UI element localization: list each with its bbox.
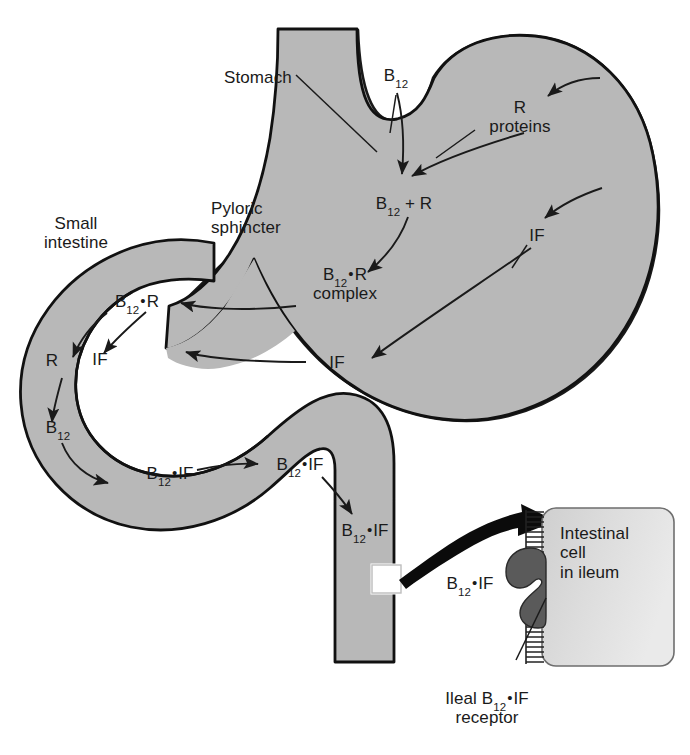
label-r-proteins: R proteins [489, 98, 550, 137]
label-b12-plus-r: B12 + R [376, 194, 433, 213]
inset-callout-box[interactable] [372, 565, 401, 593]
small-intestine-line1: Small [44, 214, 108, 233]
label-b12-free: B12 [46, 418, 70, 437]
membrane-receptor-icon [506, 548, 546, 628]
arrow-b12R-split-IF [104, 312, 146, 353]
label-if-intestine: IF [92, 350, 107, 369]
b12-top-base: B [384, 66, 395, 85]
b12plusr-sub: 12 [387, 206, 400, 218]
label-if-antrum: IF [329, 353, 344, 372]
ileal-receptor-line1: Ileal B12•IF [445, 689, 529, 708]
label-intestinal-cell: Intestinal cell in ileum [560, 524, 629, 582]
intestinal-cell-line2: cell [560, 543, 629, 562]
label-b12-r-complex: B12•R complex [313, 265, 377, 304]
pyloric-line2: sphincter [211, 218, 281, 237]
label-b12-top: B12 [384, 66, 408, 85]
label-b12-if-2: B12•IF [276, 455, 323, 474]
figure-canvas: Stomach Pyloric sphincter Small intestin… [0, 0, 690, 755]
pyloric-line1: Pyloric [211, 199, 281, 218]
intestinal-cell-line3: in ileum [560, 563, 629, 582]
intestinal-cell-line1: Intestinal [560, 524, 629, 543]
r-proteins-line2: proteins [489, 117, 550, 136]
label-r-free: R [46, 351, 58, 370]
b12plusr-base: B [376, 194, 387, 213]
label-b12-if-1: B12•IF [146, 464, 193, 483]
label-b12-if-inset: B12•IF [446, 574, 493, 593]
label-b12-if-3: B12•IF [341, 521, 388, 540]
label-if-stomach: IF [529, 226, 544, 245]
small-intestine-line2: intestine [44, 233, 108, 252]
b12plusr-tail: + R [400, 194, 432, 213]
label-ileal-receptor: Ileal B12•IF receptor [445, 689, 529, 728]
b12-top-sub: 12 [395, 78, 408, 90]
b12r-complex-line1: B12•R [313, 265, 377, 284]
label-b12-r-intestine: B12•R [115, 292, 159, 311]
label-pyloric-sphincter: Pyloric sphincter [211, 199, 281, 238]
label-stomach: Stomach [224, 68, 292, 87]
label-small-intestine: Small intestine [44, 214, 108, 253]
r-proteins-line1: R [489, 98, 550, 117]
b12-absorption-diagram [0, 0, 690, 755]
ileal-receptor-line2: receptor [445, 708, 529, 727]
